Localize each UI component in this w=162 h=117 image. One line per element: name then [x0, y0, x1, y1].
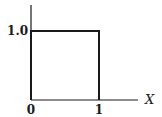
x-tick-label-0: 0 — [27, 103, 35, 117]
x-tick-label-1: 1 — [95, 103, 103, 117]
chart-canvas: 1.0 0 1 X — [0, 0, 162, 117]
x-axis-label: X — [144, 92, 155, 107]
density-line — [31, 31, 99, 100]
y-tick-label: 1.0 — [7, 24, 28, 38]
